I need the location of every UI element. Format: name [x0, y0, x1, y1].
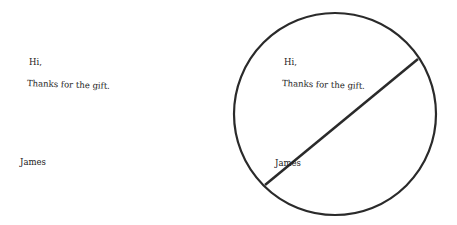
circle-diagram: [0, 0, 457, 225]
circle-outline: [234, 13, 436, 215]
right-greeting: Hi,: [284, 57, 297, 67]
right-signature: James: [275, 158, 301, 168]
